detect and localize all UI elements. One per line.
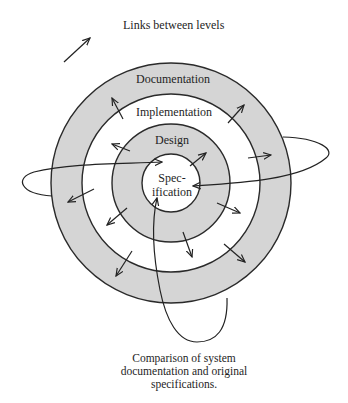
- legend-arrow: [64, 38, 90, 62]
- label-specification-1: Spec-: [158, 171, 185, 185]
- caption-line-2: documentation and original: [121, 365, 247, 378]
- label-design: Design: [155, 133, 189, 147]
- label-documentation: Documentation: [136, 72, 210, 86]
- caption-line-1: Comparison of system: [132, 352, 236, 365]
- label-implementation: Implementation: [136, 105, 212, 119]
- label-specification-2: ification: [152, 185, 192, 199]
- levels-diagram: Links between levels Documentation Imple…: [0, 0, 348, 403]
- legend-label: Links between levels: [123, 18, 225, 32]
- caption-line-3: specifications.: [151, 378, 217, 391]
